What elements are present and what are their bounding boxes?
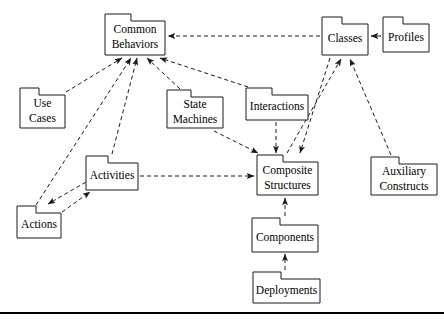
dependency-arrows xyxy=(36,36,391,270)
dependency-state-machines-to-common-behaviors xyxy=(147,58,180,89)
package-label-line1: Common xyxy=(114,23,157,35)
package-label-line2: Machines xyxy=(173,113,218,125)
package-label-line1: State xyxy=(184,98,207,110)
package-label-line2: Constructs xyxy=(379,180,429,192)
package-label-line1: Composite xyxy=(263,164,313,177)
package-label-line2: Behaviors xyxy=(112,38,159,50)
dependency-activities-to-common-behaviors xyxy=(112,58,137,154)
uml-package-diagram: CommonBehaviorsClassesProfilesUseCasesSt… xyxy=(0,0,444,326)
package-state-machines[interactable]: StateMachines xyxy=(167,90,223,128)
package-label: Classes xyxy=(328,32,363,44)
diagram-canvas: CommonBehaviorsClassesProfilesUseCasesSt… xyxy=(0,0,444,326)
package-profiles[interactable]: Profiles xyxy=(383,17,429,52)
package-label: Actions xyxy=(21,218,57,230)
dependency-state-machines-to-composite-structures xyxy=(214,131,258,153)
package-label: Activities xyxy=(90,169,135,181)
package-deployments[interactable]: Deployments xyxy=(253,272,320,303)
dependency-use-cases-to-common-behaviors xyxy=(66,58,122,92)
package-components[interactable]: Components xyxy=(252,218,318,252)
package-label-line1: Use xyxy=(34,97,52,109)
package-label: Deployments xyxy=(256,284,318,297)
package-label: Interactions xyxy=(250,100,305,112)
package-label-line2: Cases xyxy=(29,112,56,124)
package-classes[interactable]: Classes xyxy=(322,17,368,55)
package-actions[interactable]: Actions xyxy=(17,206,61,238)
package-common-behaviors[interactable]: CommonBehaviors xyxy=(105,14,165,55)
package-composite-structures[interactable]: CompositeStructures xyxy=(257,155,318,195)
dependency-auxiliary-constructs-to-classes xyxy=(350,59,391,155)
package-label-line1: Auxiliary xyxy=(382,165,426,178)
dependency-actions-to-activities xyxy=(62,192,90,212)
package-nodes: CommonBehaviorsClassesProfilesUseCasesSt… xyxy=(17,14,437,303)
package-auxiliary-constructs[interactable]: AuxiliaryConstructs xyxy=(371,157,437,195)
package-interactions[interactable]: Interactions xyxy=(246,88,308,120)
package-activities[interactable]: Activities xyxy=(86,156,138,190)
dependency-activities-to-actions xyxy=(48,182,86,204)
package-label-line2: Structures xyxy=(264,179,311,191)
package-label: Components xyxy=(256,231,315,244)
package-label: Profiles xyxy=(388,31,424,43)
package-use-cases[interactable]: UseCases xyxy=(20,88,65,128)
